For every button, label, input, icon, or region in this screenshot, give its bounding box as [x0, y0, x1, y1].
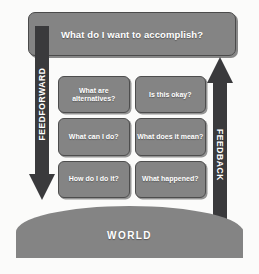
arrow-up-icon [207, 57, 233, 83]
action-cycle-diagram: What do I want to accomplish? FEEDFORWAR… [0, 0, 259, 274]
question-label: How do I do it? [69, 175, 119, 183]
goal-banner-label: What do I want to accomplish? [61, 29, 203, 40]
question-label: What can I do? [69, 133, 119, 141]
feedforward-arrow: FEEDFORWARD [30, 26, 54, 204]
question-grid: What are alternatives? Is this okay? Wha… [58, 76, 206, 198]
question-box-what-does-it-mean: What does it mean? [135, 118, 207, 155]
question-label: What happened? [142, 175, 198, 183]
feedback-arrow-label: FEEDBACK [215, 129, 225, 181]
world-band: WORLD [16, 206, 243, 258]
question-box-what-happened: What happened? [135, 161, 207, 198]
question-box-is-this-okay: Is this okay? [135, 76, 207, 113]
question-label: What does it mean? [137, 133, 203, 141]
question-box-how-do-i-do-it: How do I do it? [58, 161, 130, 198]
question-label: Is this okay? [149, 91, 191, 99]
world-label: WORLD [16, 230, 243, 241]
arrow-down-icon [29, 174, 55, 200]
question-box-what-are-alternatives: What are alternatives? [58, 76, 130, 113]
question-box-what-can-i-do: What can I do? [58, 118, 130, 155]
question-label: What are alternatives? [60, 87, 128, 103]
goal-banner: What do I want to accomplish? [28, 12, 236, 56]
feedback-arrow: FEEDBACK [208, 57, 232, 227]
feedforward-arrow-label: FEEDFORWARD [37, 67, 47, 140]
